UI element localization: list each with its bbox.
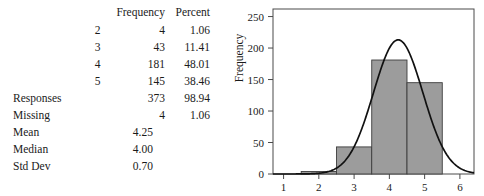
row-label (0, 22, 88, 39)
histogram-bar (336, 147, 371, 174)
x-axis-tick-label: 3 (351, 181, 357, 193)
row-percent: 38.46 (165, 73, 222, 90)
stat-blank (88, 141, 101, 158)
header-frequency: Frequency (100, 3, 165, 22)
stat-value: 4.25 (100, 124, 165, 141)
table-row: 3 43 11.41 (0, 39, 222, 56)
stat-blank-percent (165, 158, 222, 175)
table-row-median: Median 4.00 (0, 141, 222, 158)
table-row-stddev: Std Dev 0.70 (0, 158, 222, 175)
row-category: 5 (88, 73, 101, 90)
table-row-responses: Responses 373 98.94 (0, 90, 222, 107)
table-row-missing: Missing 4 1.06 (0, 107, 222, 124)
table-row: 5 145 38.46 (0, 73, 222, 90)
row-frequency: 145 (100, 73, 165, 90)
header-percent: Percent (165, 3, 222, 22)
header-blank-category (88, 3, 101, 22)
y-axis-tick-label: 0 (259, 168, 265, 180)
x-axis-tick-label: 2 (316, 181, 322, 193)
row-category: 3 (88, 39, 101, 56)
x-axis-tick-label: 4 (387, 181, 393, 193)
y-axis-tick-label: 150 (248, 74, 265, 86)
row-label (0, 39, 88, 56)
stat-blank-percent (165, 141, 222, 158)
row-category (88, 90, 101, 107)
table-row: 4 181 48.01 (0, 56, 222, 73)
stat-value: 0.70 (100, 158, 165, 175)
row-label: Responses (0, 90, 88, 107)
table-row-mean: Mean 4.25 (0, 124, 222, 141)
stat-blank (88, 124, 101, 141)
row-label: Missing (0, 107, 88, 124)
row-category: 2 (88, 22, 101, 39)
x-axis-tick-label: 1 (281, 181, 287, 193)
x-axis-tick-label: 6 (457, 181, 463, 193)
stat-label: Mean (0, 124, 88, 141)
stat-blank-percent (165, 124, 222, 141)
row-frequency: 373 (100, 90, 165, 107)
stat-value: 4.00 (100, 141, 165, 158)
row-frequency: 181 (100, 56, 165, 73)
frequency-table: Frequency Percent 2 4 1.06 3 43 11.41 4 … (0, 3, 222, 175)
histogram-bar (372, 60, 407, 174)
table-header-row: Frequency Percent (0, 3, 222, 22)
y-axis-tick-label: 100 (248, 105, 265, 117)
row-percent: 11.41 (165, 39, 222, 56)
row-frequency: 43 (100, 39, 165, 56)
histogram-panel: Frequency 050100150200250123456 (222, 0, 484, 196)
row-label (0, 56, 88, 73)
row-category: 4 (88, 56, 101, 73)
row-frequency: 4 (100, 22, 165, 39)
row-percent: 98.94 (165, 90, 222, 107)
stat-label: Median (0, 141, 88, 158)
y-axis-tick-label: 50 (253, 137, 265, 149)
stat-blank (88, 158, 101, 175)
row-frequency: 4 (100, 107, 165, 124)
y-axis-tick-label: 250 (248, 11, 265, 23)
frequency-table-panel: Frequency Percent 2 4 1.06 3 43 11.41 4 … (0, 0, 222, 196)
table-body: 2 4 1.06 3 43 11.41 4 181 48.01 5 145 38… (0, 22, 222, 175)
header-blank-label (0, 3, 88, 22)
stat-label: Std Dev (0, 158, 88, 175)
row-label (0, 73, 88, 90)
row-percent: 1.06 (165, 107, 222, 124)
row-percent: 1.06 (165, 22, 222, 39)
x-axis-tick-label: 5 (422, 181, 428, 193)
row-category (88, 107, 101, 124)
y-axis-tick-label: 200 (248, 42, 265, 54)
table-row: 2 4 1.06 (0, 22, 222, 39)
row-percent: 48.01 (165, 56, 222, 73)
histogram-plot: 050100150200250123456 (222, 0, 484, 196)
